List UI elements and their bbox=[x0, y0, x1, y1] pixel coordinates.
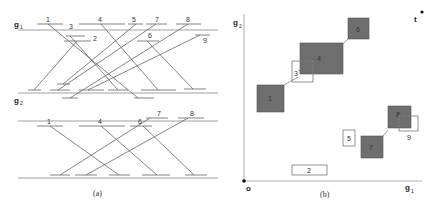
caption-a: (a) bbox=[93, 189, 102, 198]
label-5: 5 bbox=[132, 16, 136, 23]
panel-b: 1 3 4 6 5 7 8 9 2 g 2 g 1 o t bbox=[233, 10, 424, 199]
g1-label: g bbox=[14, 20, 19, 29]
b-connector-1 bbox=[50, 126, 119, 175]
box-4-label: 4 bbox=[317, 55, 321, 62]
box-9-label: 9 bbox=[407, 134, 411, 141]
connector-6 bbox=[147, 41, 193, 89]
y-axis-sub: 2 bbox=[239, 23, 242, 29]
caption-b: (b) bbox=[320, 190, 330, 199]
box-3-label: 3 bbox=[294, 70, 298, 77]
origin-dot bbox=[242, 179, 246, 183]
b-label-1: 1 bbox=[47, 118, 51, 125]
y-axis-label: g bbox=[233, 18, 238, 27]
origin-label: o bbox=[246, 184, 251, 193]
box-4 bbox=[300, 43, 343, 74]
b-connector-6 bbox=[143, 126, 194, 175]
label-6: 6 bbox=[148, 32, 152, 39]
label-1: 1 bbox=[46, 16, 50, 23]
panel-a-top-labels: g 1 1 3 4 5 7 8 2 6 9 g 2 bbox=[14, 16, 207, 106]
label-3: 3 bbox=[69, 23, 73, 30]
connector-8 bbox=[70, 24, 188, 98]
connector-2 bbox=[34, 41, 77, 90]
box-7-label: 7 bbox=[369, 144, 373, 151]
connector-3 bbox=[70, 36, 118, 90]
box-8-label: 8 bbox=[396, 111, 400, 118]
label-8: 8 bbox=[186, 16, 190, 23]
link-7-8 bbox=[383, 130, 388, 136]
link-4-6 bbox=[343, 39, 348, 44]
g1-sub: 1 bbox=[20, 24, 23, 30]
target-dot bbox=[420, 10, 423, 13]
b-label-6: 6 bbox=[138, 118, 142, 125]
label-4: 4 bbox=[98, 16, 102, 23]
b-connector-4 bbox=[101, 126, 157, 175]
g2-sub: 2 bbox=[20, 100, 23, 106]
box-1-label: 1 bbox=[268, 95, 272, 102]
b-label-8: 8 bbox=[190, 110, 194, 117]
panel-a-top bbox=[18, 24, 218, 98]
g2-label: g bbox=[14, 96, 19, 105]
label-2: 2 bbox=[93, 35, 97, 42]
box-2-label: 2 bbox=[307, 167, 311, 174]
connector-7 bbox=[58, 24, 156, 90]
box-6-label: 6 bbox=[356, 26, 360, 33]
label-9: 9 bbox=[203, 37, 207, 44]
label-7: 7 bbox=[155, 16, 159, 23]
b-label-4: 4 bbox=[98, 118, 102, 125]
box-5-label: 5 bbox=[347, 135, 351, 142]
connector-9 bbox=[88, 35, 200, 90]
link-1-3 bbox=[284, 77, 298, 85]
b-label-7: 7 bbox=[157, 110, 161, 117]
x-axis-label: g bbox=[405, 183, 410, 192]
x-axis-sub: 1 bbox=[411, 188, 414, 194]
panel-a-bottom bbox=[18, 118, 218, 178]
connector-5 bbox=[63, 24, 136, 84]
target-label: t bbox=[414, 15, 417, 24]
figure: g 1 1 3 4 5 7 8 2 6 9 g 2 1 4 6 bbox=[0, 0, 436, 209]
